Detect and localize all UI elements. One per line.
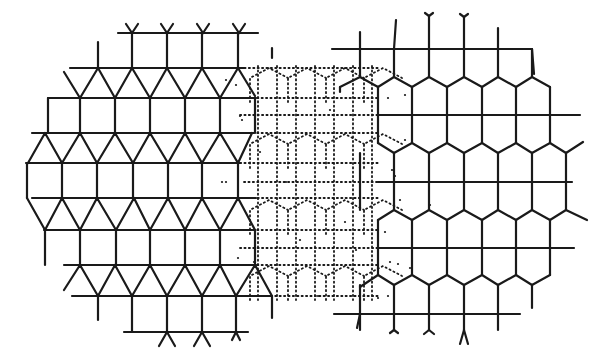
left-triangle-lattice xyxy=(26,24,272,346)
lattice-figure xyxy=(0,0,596,358)
lattice-diagram xyxy=(0,0,596,358)
right-hexagon-lattice xyxy=(332,13,587,344)
